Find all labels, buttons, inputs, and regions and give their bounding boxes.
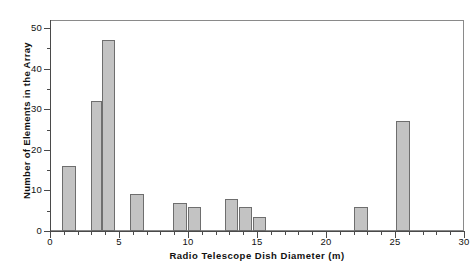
y-tick-major xyxy=(44,109,50,110)
y-tick-minor xyxy=(47,130,50,131)
x-tick-minor xyxy=(147,232,148,235)
x-tick-label: 30 xyxy=(452,236,476,247)
y-tick-major xyxy=(44,190,50,191)
chart-figure: 051015202530 01020304050 Radio Telescope… xyxy=(0,0,476,270)
x-tick-minor xyxy=(229,232,230,235)
x-tick-minor xyxy=(409,232,410,235)
x-tick-minor xyxy=(243,232,244,235)
x-tick-minor xyxy=(160,232,161,235)
y-tick-minor xyxy=(47,170,50,171)
y-tick-minor xyxy=(47,211,50,212)
y-tick-major xyxy=(44,231,50,232)
x-tick-label: 10 xyxy=(176,236,200,247)
y-tick-minor xyxy=(47,48,50,49)
x-tick-minor xyxy=(105,232,106,235)
bar xyxy=(188,207,201,231)
x-tick-minor xyxy=(340,232,341,235)
x-tick-label: 5 xyxy=(107,236,131,247)
y-tick-major xyxy=(44,69,50,70)
bar xyxy=(173,203,187,231)
x-axis-title: Radio Telescope Dish Diameter (m) xyxy=(50,250,464,261)
x-tick-minor xyxy=(174,232,175,235)
bar xyxy=(239,207,252,231)
x-tick-minor xyxy=(312,232,313,235)
x-tick-minor xyxy=(78,232,79,235)
x-tick-minor xyxy=(381,232,382,235)
x-tick-minor xyxy=(367,232,368,235)
y-tick-major xyxy=(44,150,50,151)
x-tick-minor xyxy=(436,232,437,235)
bar xyxy=(354,207,368,231)
x-tick-label: 25 xyxy=(383,236,407,247)
x-tick-minor xyxy=(271,232,272,235)
y-tick-minor xyxy=(47,89,50,90)
x-tick-minor xyxy=(64,232,65,235)
bar xyxy=(91,101,103,231)
y-tick-major xyxy=(44,28,50,29)
x-tick-minor xyxy=(216,232,217,235)
bar xyxy=(253,217,266,231)
x-tick-minor xyxy=(354,232,355,235)
y-axis-title: Number of Elements in the Array xyxy=(21,21,32,221)
bar xyxy=(225,199,239,231)
bar xyxy=(396,121,410,231)
bar-series xyxy=(50,20,464,231)
bar xyxy=(130,194,144,231)
x-tick-minor xyxy=(423,232,424,235)
bar xyxy=(102,40,114,231)
x-tick-minor xyxy=(133,232,134,235)
y-tick-label: 0 xyxy=(20,225,42,236)
bar xyxy=(62,166,76,231)
x-tick-minor xyxy=(202,232,203,235)
x-tick-label: 15 xyxy=(245,236,269,247)
x-tick-label: 20 xyxy=(314,236,338,247)
x-tick-minor xyxy=(91,232,92,235)
x-tick-minor xyxy=(298,232,299,235)
x-tick-minor xyxy=(285,232,286,235)
x-tick-minor xyxy=(450,232,451,235)
